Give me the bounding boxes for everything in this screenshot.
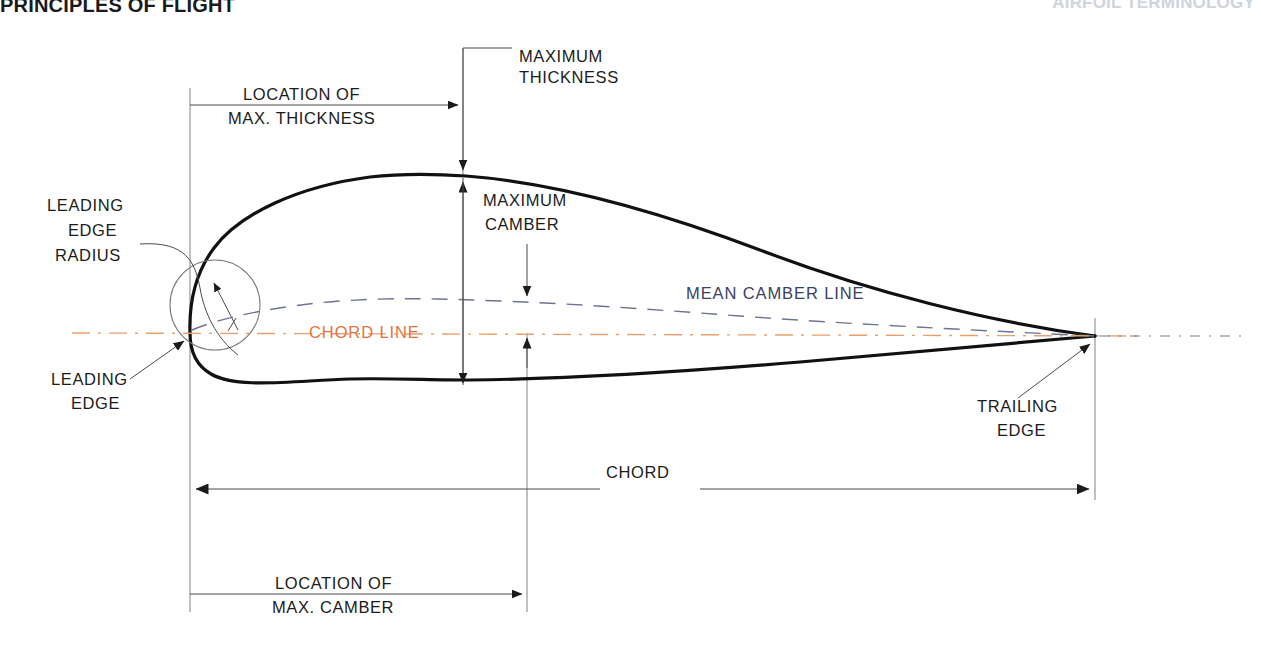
trailing-edge-label-line2: EDGE — [997, 421, 1046, 439]
diagram-canvas: PRINCIPLES OF FLIGHT AIRFOIL TERMINOLOGY — [0, 0, 1261, 665]
leading-edge-radius-arrow — [214, 283, 238, 330]
max-camber-label-line1: MAXIMUM — [483, 191, 567, 209]
airfoil-diagram: MAXIMUM THICKNESS LOCATION OF MAX. THICK… — [0, 0, 1261, 665]
leading-edge-radius-label: LEADING EDGE RADIUS — [47, 196, 124, 264]
maximum-camber-callout: MAXIMUM CAMBER — [483, 191, 567, 368]
location-of-max-camber-callout: LOCATION OF MAX. CAMBER — [190, 574, 522, 616]
leading-edge-arrow — [130, 341, 184, 379]
leading-edge-label-line1: LEADING — [51, 370, 128, 388]
chord-line-label: CHORD LINE — [309, 323, 420, 341]
trailing-edge-callout: TRAILING EDGE — [977, 344, 1090, 439]
max-camber-label-line2: CAMBER — [485, 215, 559, 233]
leading-edge-radius-line1: LEADING — [47, 196, 124, 214]
location-of-max-thickness-callout: LOCATION OF MAX. THICKNESS — [190, 85, 458, 127]
mean-camber-line-label: MEAN CAMBER LINE — [686, 284, 865, 302]
leading-edge-radius-line3: RADIUS — [55, 246, 121, 264]
leading-edge-radius-line2: EDGE — [68, 221, 117, 239]
leading-edge-radius-group — [140, 244, 260, 355]
trailing-edge-label-line1: TRAILING — [977, 397, 1058, 415]
leading-edge-radius-circle — [170, 260, 260, 350]
leading-edge-callout: LEADING EDGE — [51, 341, 184, 412]
location-max-camber-label-line1: LOCATION OF — [275, 574, 392, 592]
max-thickness-label-line1: MAXIMUM — [519, 47, 603, 65]
leading-edge-label-line2: EDGE — [71, 394, 120, 412]
chord-dimension: CHORD — [196, 463, 1089, 489]
location-max-camber-label-line2: MAX. CAMBER — [272, 598, 394, 616]
airfoil-outline-group — [190, 174, 1095, 383]
max-thickness-label-line2: THICKNESS — [519, 68, 619, 86]
location-max-thickness-label-line1: LOCATION OF — [243, 85, 360, 103]
chord-line — [72, 333, 1140, 336]
chord-label: CHORD — [606, 463, 670, 481]
location-max-thickness-label-line2: MAX. THICKNESS — [228, 109, 375, 127]
airfoil-upper-surface — [190, 174, 1095, 336]
trailing-edge-arrow — [1018, 344, 1090, 398]
